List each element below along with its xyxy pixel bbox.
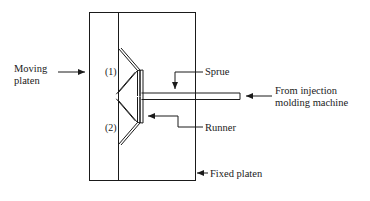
runner-channel-bottom-cap [138, 123, 144, 124]
from-injection-molding-machine-label: From injection molding machine [275, 85, 348, 109]
figure-canvas: Moving platen (1) (2) Sprue Runner From … [0, 0, 370, 201]
runner-channel-top-cap [138, 70, 144, 71]
sprue-leader [175, 72, 203, 89]
fixed-platen-label: Fixed platen [210, 168, 262, 180]
upper-chevron-cavity-lower-front [119, 71, 138, 93]
cavity-1-label: (1) [105, 66, 117, 78]
lower-chevron-cavity-upper-front [119, 101, 138, 123]
runner-label: Runner [205, 122, 236, 134]
upper-chevron-cavity-lower-back [116, 72, 135, 94]
moving-platen-label: Moving platen [14, 63, 47, 87]
sprue-label: Sprue [205, 66, 230, 78]
lower-chevron-cavity-upper-back [116, 99, 135, 121]
runner-leader [148, 116, 203, 127]
cavity-2-label: (2) [105, 122, 117, 134]
